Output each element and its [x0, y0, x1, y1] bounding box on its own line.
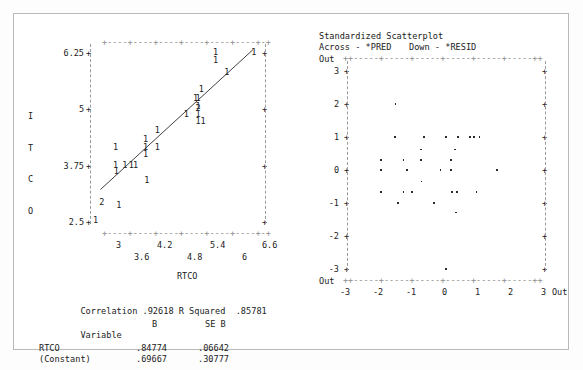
scatterplot-dot	[420, 159, 422, 161]
scatterplot-title: Standardized Scatterplot	[319, 31, 443, 41]
scatterplot-right-border	[545, 61, 546, 271]
scatterplot-dot	[394, 136, 396, 138]
scatterplot-top-out-label: Out	[319, 54, 335, 64]
scatterplot-dot	[433, 202, 435, 204]
scatterplot-dot	[397, 202, 399, 204]
scatterplot-y-tick-label: -2	[317, 232, 339, 241]
scatterplot-dot	[476, 191, 478, 193]
scatterplot-dot	[406, 169, 408, 171]
standardized-scatterplot: Standardized Scatterplot Across - *PRED …	[311, 14, 583, 304]
scatterplot-x-tick-label: 2	[508, 288, 513, 297]
left-plot-point: 1	[196, 94, 201, 103]
scatterplot-x-tick-label: 3	[541, 288, 546, 297]
left-plot-point: 1	[113, 143, 118, 152]
scatterplot-top-rule: ++-----+-----+-----+-----+-----+-----++	[343, 54, 543, 63]
scatterplot-dot	[454, 149, 456, 151]
correlation-label: Correlation	[80, 306, 137, 316]
scatterplot-dot	[479, 136, 481, 138]
rsquared-value: .85781	[236, 306, 267, 316]
left-plot-point: 1	[143, 135, 148, 144]
table-row-variable: (Constant)	[39, 354, 91, 365]
left-scatterplot: I T C O +----+----+----+----+----+----+-…	[14, 14, 314, 304]
scatterplot-x-tick-label: 0	[442, 288, 447, 297]
left-plot-point: 1	[144, 176, 149, 185]
output-sheet: I T C O +----+----+----+----+----+----+-…	[13, 13, 569, 350]
scatterplot-dot	[445, 136, 447, 138]
scatterplot-dot	[496, 169, 498, 171]
scatterplot-dot	[421, 181, 423, 183]
left-plot-point: 1	[199, 85, 204, 94]
left-plot-point: 2	[196, 104, 201, 113]
scatterplot-dot	[395, 103, 397, 105]
table-row-b: .84774	[136, 343, 167, 354]
scatterplot-dot	[440, 169, 442, 171]
scatterplot-dot	[450, 159, 452, 161]
column-header-b: B	[152, 319, 157, 330]
column-header-se-b: SE B	[205, 319, 226, 330]
table-row-variable: RTCO	[39, 343, 60, 354]
scatterplot-dot	[445, 268, 447, 270]
scatterplot-x-tick-label: -1	[406, 288, 416, 297]
scatterplot-across-label: Across - *PRED	[319, 42, 391, 52]
scatterplot-dot	[403, 191, 405, 193]
left-plot-point: 1	[122, 161, 127, 170]
scatterplot-x-tick-label: -2	[373, 288, 383, 297]
left-plot-point: 1	[116, 201, 121, 210]
scatterplot-dot	[403, 159, 405, 161]
scatterplot-left-border	[347, 61, 348, 271]
scatterplot-dot	[380, 169, 382, 171]
left-plot-point: 1	[184, 110, 189, 119]
table-row-se-b: .06642	[198, 343, 229, 354]
scatterplot-x-tick-label: -3	[340, 288, 350, 297]
output-page: I T C O +----+----+----+----+----+----+-…	[0, 0, 583, 370]
scatterplot-dot	[380, 191, 382, 193]
scatterplot-dot	[457, 136, 459, 138]
left-plot-point: 1	[155, 143, 160, 152]
scatterplot-y-tick-label: 3	[317, 67, 339, 76]
left-plot-point: 1	[155, 126, 160, 135]
left-plot-point: 2	[99, 198, 104, 207]
table-row-b: .69667	[136, 354, 167, 365]
scatterplot-y-tick-label: 1	[317, 133, 339, 142]
left-plot-point: 1	[213, 56, 218, 65]
scatterplot-dot	[380, 159, 382, 161]
table-row-se-b: .30777	[198, 354, 229, 365]
scatterplot-dot	[469, 136, 471, 138]
scatterplot-y-tick-label: 2	[317, 100, 339, 109]
scatterplot-dot	[420, 149, 422, 151]
scatterplot-dot	[423, 136, 425, 138]
scatterplot-x-tick-label: 1	[475, 288, 480, 297]
scatterplot-dot	[456, 191, 458, 193]
left-plot-point: 1	[143, 143, 148, 152]
scatterplot-bottom-rule: ++-----+-----+-----+-----+-----+-----++	[343, 276, 543, 285]
left-plot-point: 1	[133, 161, 138, 170]
scatterplot-dot	[451, 191, 453, 193]
left-plot-point: 1	[224, 68, 229, 77]
scatterplot-dot	[455, 212, 457, 214]
left-plot-point: 1	[93, 216, 98, 225]
scatterplot-x-axis-out-label: Out	[552, 288, 567, 297]
regression-line	[14, 14, 314, 304]
scatterplot-down-label: Down - *RESID	[409, 42, 476, 52]
correlation-value: .92618	[143, 306, 174, 316]
left-plot-point: 1	[113, 161, 118, 170]
scatterplot-dot	[411, 191, 413, 193]
scatterplot-bottom-out-label: Out	[319, 276, 335, 286]
left-plot-point: 1	[251, 48, 256, 57]
rsquared-label: R Squared	[179, 306, 226, 316]
scatterplot-y-tick-label: -1	[317, 199, 339, 208]
left-plot-point: 1	[201, 117, 206, 126]
column-header-variable: Variable	[80, 330, 121, 340]
scatterplot-dot	[450, 169, 452, 171]
scatterplot-y-tick-label: -3	[317, 265, 339, 274]
scatterplot-dot	[473, 136, 475, 138]
scatterplot-y-tick-label: 0	[317, 166, 339, 175]
